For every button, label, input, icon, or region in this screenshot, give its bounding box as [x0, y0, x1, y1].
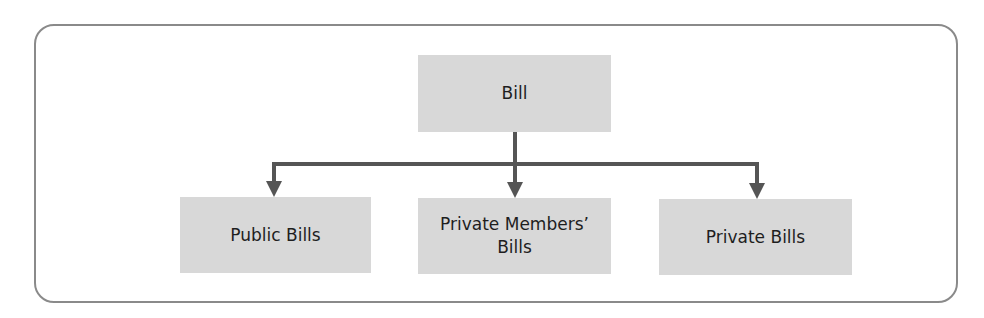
node-bill: Bill: [418, 55, 611, 132]
node-public-bills: Public Bills: [180, 197, 371, 273]
node-label: Bill: [502, 82, 528, 105]
node-private-members-bills: Private Members’ Bills: [418, 198, 611, 274]
node-private-bills: Private Bills: [659, 199, 852, 275]
node-label: Public Bills: [230, 224, 320, 247]
node-label: Private Members’ Bills: [440, 213, 589, 259]
node-label: Private Bills: [706, 226, 805, 249]
